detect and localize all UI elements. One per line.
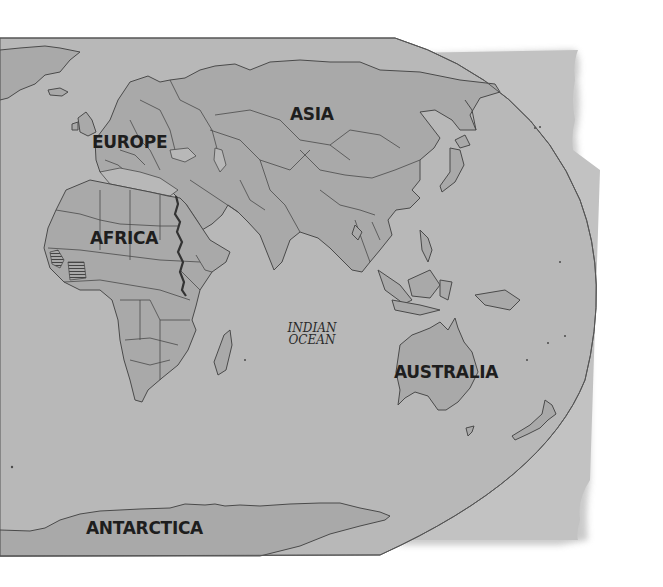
- label-europe: EUROPE: [92, 132, 167, 152]
- indian-ocean-line2: OCEAN: [272, 334, 352, 346]
- west-africa-striped-2: [68, 262, 86, 280]
- label-australia: AUSTRALIA: [394, 362, 498, 382]
- label-africa: AFRICA: [90, 228, 158, 248]
- world-map: ASIA EUROPE AFRICA AUSTRALIA ANTARCTICA …: [0, 0, 663, 587]
- map-graphic: [0, 0, 663, 587]
- label-indian-ocean: INDIAN OCEAN: [272, 322, 352, 346]
- label-asia: ASIA: [290, 104, 334, 124]
- label-antarctica: ANTARCTICA: [86, 518, 203, 538]
